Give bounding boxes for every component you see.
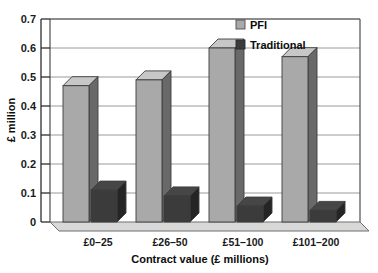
bar-traditional-0[interactable] bbox=[91, 181, 126, 222]
legend-swatch-traditional bbox=[236, 40, 245, 49]
bar-pfi-3[interactable] bbox=[282, 48, 317, 222]
bar-side-face bbox=[308, 48, 317, 222]
bar-front-face bbox=[63, 86, 89, 222]
y-tick-label-5: 0.5 bbox=[21, 71, 36, 83]
x-tick-label-0: £0–25 bbox=[83, 236, 112, 248]
y-tick-label-3: 0.3 bbox=[21, 129, 36, 141]
bar-traditional-2[interactable] bbox=[237, 197, 272, 222]
bar-front-face bbox=[282, 57, 308, 222]
legend-swatch-pfi bbox=[236, 20, 245, 29]
x-tick-labels: £0–25 £26–50 £51–100 £101–200 bbox=[83, 236, 339, 248]
x-tick-label-3: £101–200 bbox=[293, 236, 340, 248]
chart-svg: 0.7 0.6 0.5 0.4 0.3 0.2 0.1 0 £ million … bbox=[0, 0, 378, 273]
bar-front-face bbox=[91, 190, 117, 222]
y-tick-labels: 0.7 0.6 0.5 0.4 0.3 0.2 0.1 0 bbox=[21, 13, 37, 228]
y-tick-label-7: 0.7 bbox=[21, 13, 36, 25]
x-tick-label-1: £26–50 bbox=[152, 236, 187, 248]
y-tick-label-4: 0.4 bbox=[21, 100, 37, 112]
y-tick-label-1: 0.1 bbox=[21, 187, 36, 199]
y-tick-label-6: 0.6 bbox=[21, 42, 36, 54]
x-axis-title: Contract value (£ millions) bbox=[131, 253, 269, 265]
legend-label-traditional: Traditional bbox=[250, 39, 306, 51]
bar-chart: 0.7 0.6 0.5 0.4 0.3 0.2 0.1 0 £ million … bbox=[0, 0, 378, 273]
legend-label-pfi: PFI bbox=[250, 19, 267, 31]
bar-front-face bbox=[136, 80, 162, 222]
y-axis bbox=[41, 19, 50, 222]
bar-pfi-2[interactable] bbox=[209, 39, 244, 222]
bar-front-face bbox=[310, 210, 336, 222]
bar-side-face bbox=[235, 39, 244, 222]
bar-front-face bbox=[237, 206, 263, 222]
floor-surface bbox=[50, 222, 369, 231]
bar-traditional-1[interactable] bbox=[164, 187, 199, 222]
y-tick-label-0: 0 bbox=[30, 216, 36, 228]
chart-floor bbox=[50, 222, 369, 231]
legend-item-pfi[interactable]: PFI bbox=[236, 19, 267, 31]
bar-front-face bbox=[209, 48, 235, 222]
y-axis-title: £ million bbox=[5, 97, 17, 142]
x-tick-label-2: £51–100 bbox=[223, 236, 264, 248]
y-tick-label-2: 0.2 bbox=[21, 158, 36, 170]
bar-front-face bbox=[164, 196, 190, 222]
